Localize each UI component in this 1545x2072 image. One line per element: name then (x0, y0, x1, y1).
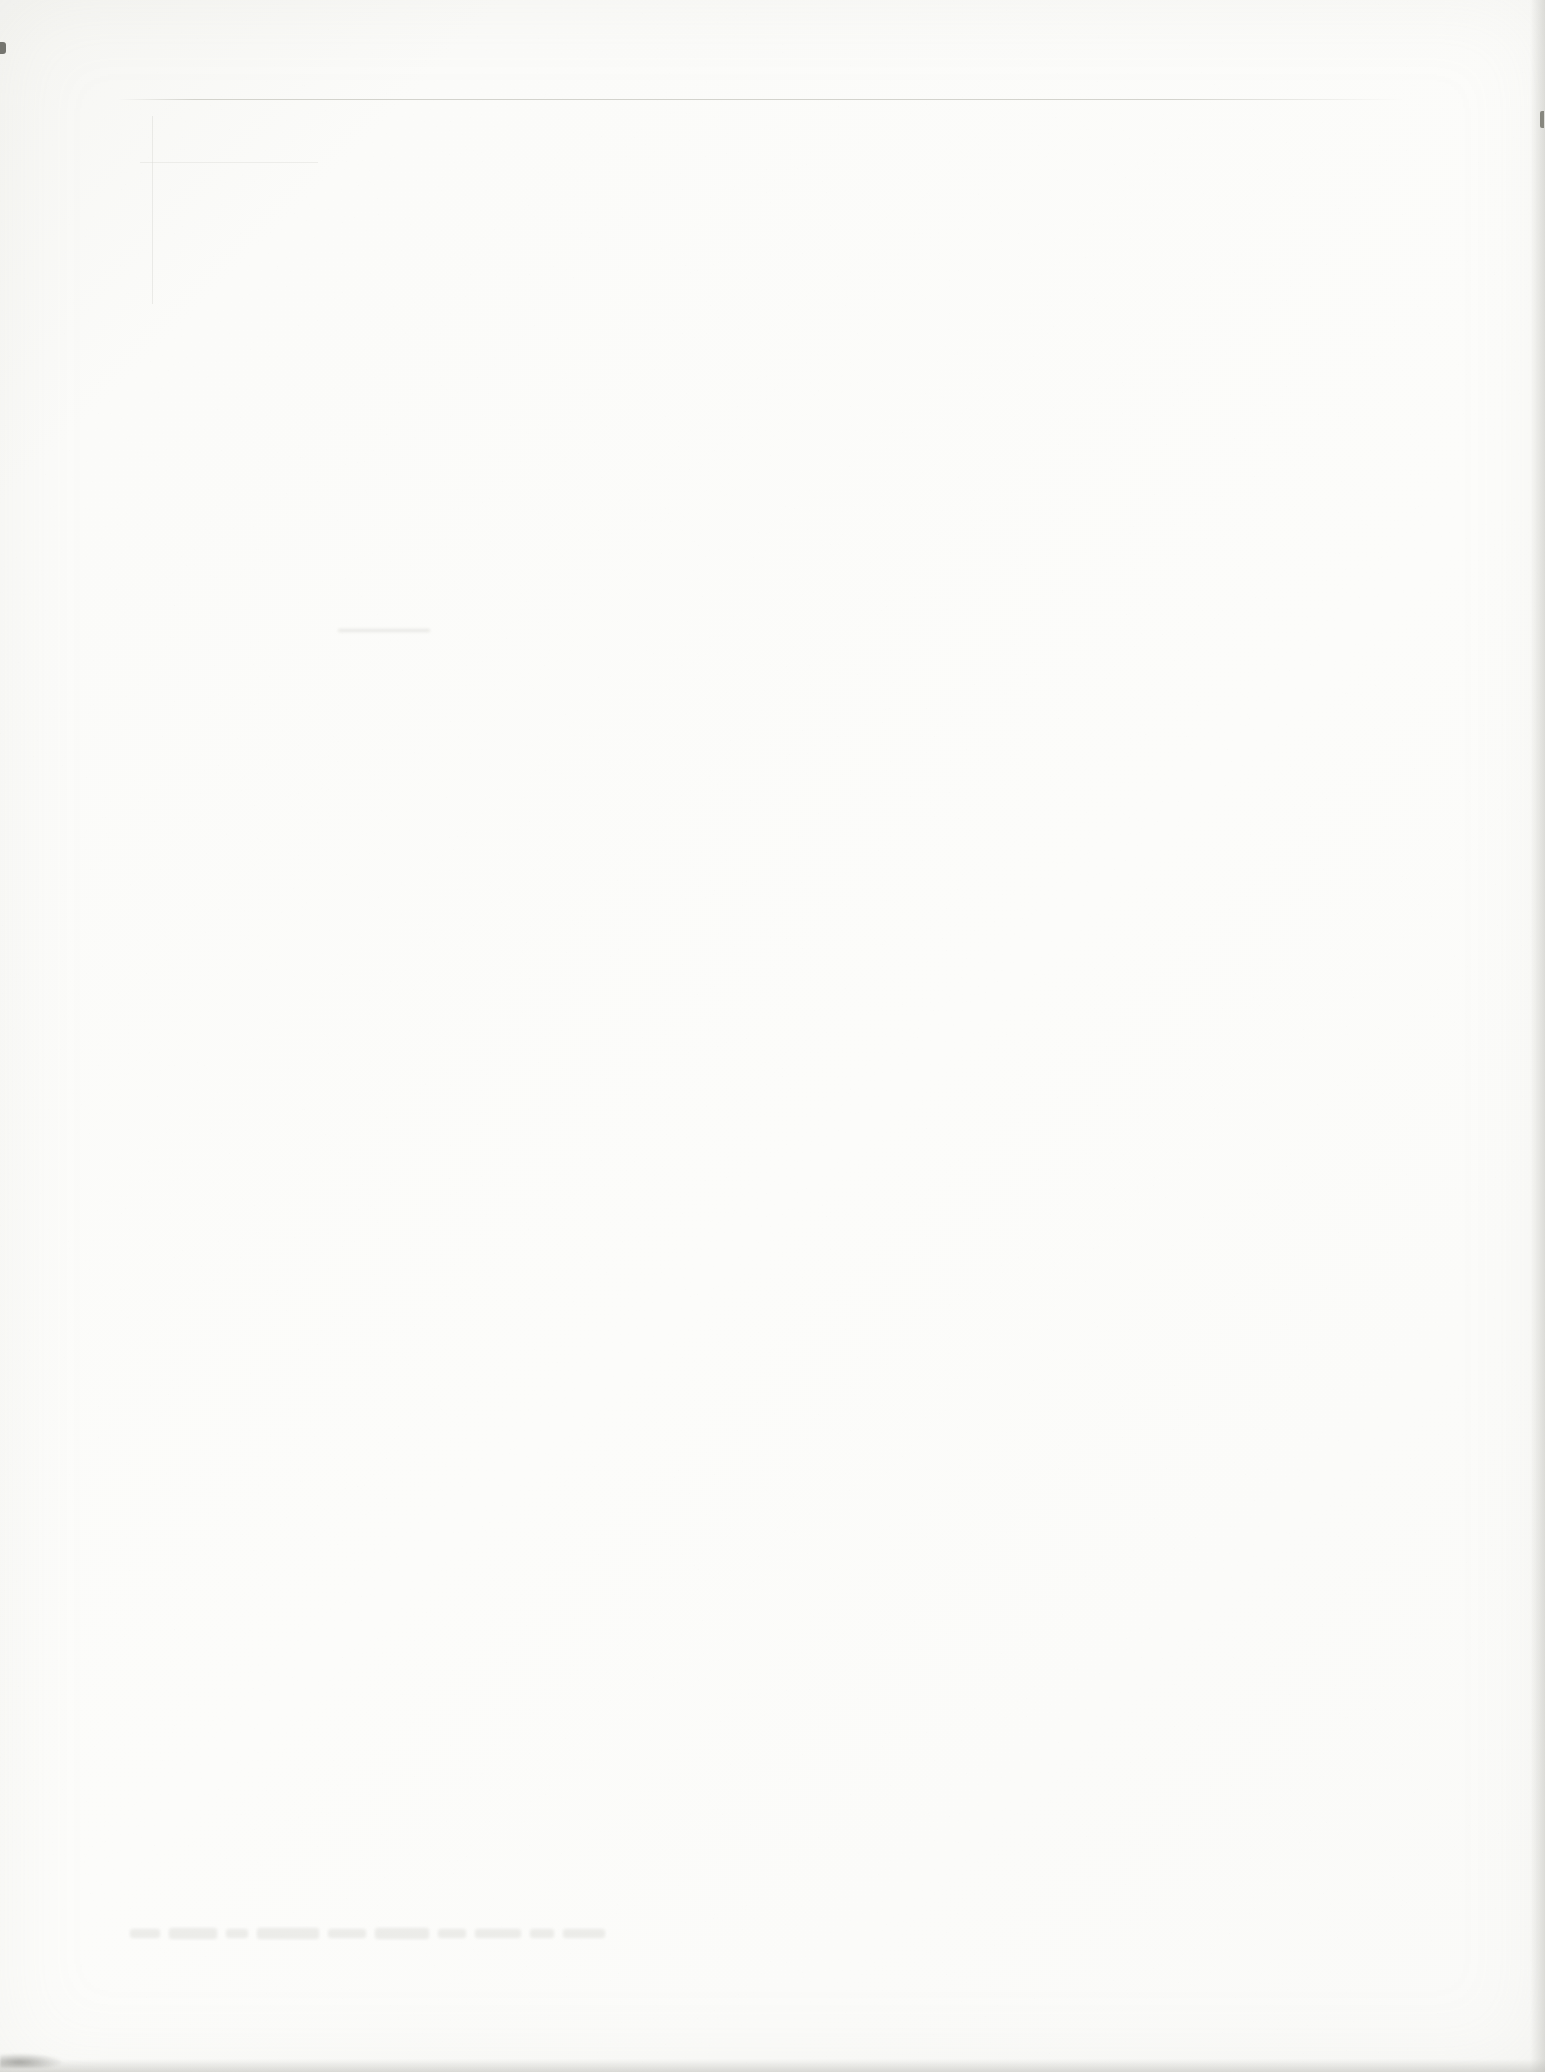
left-edge-nick-mark (0, 42, 6, 54)
ghost-word (328, 1929, 366, 1938)
ghost-bleedthrough-text-line (130, 1921, 630, 1945)
bottom-edge-scan-shadow (0, 2059, 1545, 2072)
ghost-word (130, 1929, 160, 1938)
paper-grain-texture (0, 0, 1545, 2072)
ghost-word (226, 1929, 248, 1938)
ghost-word (169, 1928, 217, 1939)
right-edge-nick-mark (1540, 111, 1544, 128)
ghost-word (563, 1929, 605, 1938)
ghost-word (257, 1928, 319, 1939)
showthrough-horizontal-line (140, 162, 318, 163)
ghost-word (475, 1929, 521, 1938)
showthrough-vertical-line (152, 116, 153, 304)
showthrough-dash (338, 629, 430, 632)
scanned-blank-page (0, 0, 1545, 2072)
ghost-word (375, 1928, 429, 1939)
bottom-left-corner-smudge (0, 2053, 64, 2068)
ghost-word (530, 1929, 554, 1938)
faint-top-hairline (118, 99, 1404, 100)
right-edge-scan-shadow (1530, 0, 1545, 2072)
ghost-word (438, 1929, 466, 1938)
